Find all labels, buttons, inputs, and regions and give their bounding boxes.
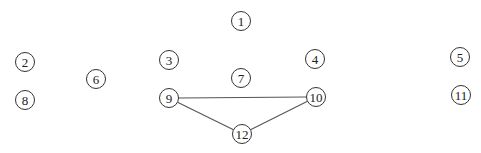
graph-svg: 123456789101112 <box>0 0 481 153</box>
node-11: 11 <box>452 86 471 105</box>
node-5: 5 <box>451 48 470 67</box>
node-label: 3 <box>166 53 173 68</box>
node-label: 1 <box>238 14 245 29</box>
node-label: 4 <box>312 52 319 67</box>
node-2: 2 <box>16 53 35 72</box>
edge-9-12 <box>178 102 234 130</box>
node-label: 2 <box>22 55 29 70</box>
edge-10-12 <box>250 101 307 130</box>
node-1: 1 <box>232 12 251 31</box>
node-label: 7 <box>238 71 245 86</box>
node-7: 7 <box>232 69 251 88</box>
node-label: 10 <box>310 90 323 105</box>
node-label: 9 <box>166 91 173 106</box>
node-9: 9 <box>160 89 179 108</box>
node-label: 8 <box>22 93 29 108</box>
node-3: 3 <box>160 51 179 70</box>
node-8: 8 <box>16 91 35 110</box>
node-label: 6 <box>93 72 100 87</box>
edge-9-10 <box>178 97 306 98</box>
node-10: 10 <box>307 88 326 107</box>
node-6: 6 <box>87 70 106 89</box>
node-4: 4 <box>306 50 325 69</box>
node-12: 12 <box>233 125 252 144</box>
node-label: 5 <box>457 50 464 65</box>
nodes-layer: 123456789101112 <box>16 12 471 144</box>
graph-diagram: 123456789101112 <box>0 0 481 153</box>
node-label: 12 <box>236 127 249 142</box>
node-label: 11 <box>455 88 468 103</box>
